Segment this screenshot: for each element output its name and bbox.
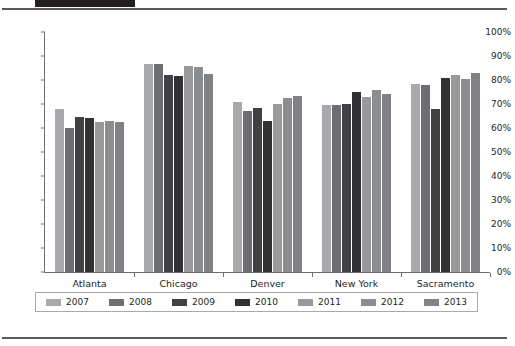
legend-item[interactable]: 2010 — [235, 298, 278, 307]
bar[interactable] — [342, 104, 351, 272]
legend-swatch — [298, 299, 313, 306]
y-axis-tick-label: 50% — [491, 148, 511, 157]
legend-swatch — [424, 299, 439, 306]
bar[interactable] — [372, 90, 381, 272]
bar[interactable] — [184, 66, 193, 272]
legend-item[interactable]: 2013 — [424, 298, 467, 307]
x-axis-line — [44, 272, 490, 273]
x-axis-tick-label: Denver — [223, 278, 312, 289]
bar[interactable] — [362, 97, 371, 272]
y-axis-tick-label: 20% — [491, 220, 511, 229]
bar-chart: 100%90%80%70%60%50%40%30%20%10%0%Atlanta… — [0, 14, 515, 284]
y-axis-tick-mark — [41, 200, 45, 201]
x-axis-tick-mark — [134, 273, 135, 277]
y-axis-tick-mark — [41, 248, 45, 249]
legend-label: 2011 — [318, 298, 341, 307]
bar[interactable] — [293, 96, 302, 272]
plot-area — [45, 32, 490, 272]
x-axis-tick-label: New York — [312, 278, 401, 289]
legend-label: 2010 — [255, 298, 278, 307]
y-axis-tick-label: 70% — [491, 100, 511, 109]
y-axis-tick-label: 100% — [485, 28, 511, 37]
bar[interactable] — [194, 67, 203, 272]
title-band — [0, 0, 515, 9]
bar[interactable] — [431, 109, 440, 272]
legend-label: 2007 — [66, 298, 89, 307]
bar[interactable] — [421, 85, 430, 272]
bar[interactable] — [332, 105, 341, 272]
x-axis-tick-mark — [401, 273, 402, 277]
bar[interactable] — [253, 108, 262, 272]
y-axis-tick-mark — [41, 272, 45, 273]
bar-group — [45, 32, 134, 272]
title-block — [35, 0, 135, 7]
y-axis-tick-label: 60% — [491, 124, 511, 133]
legend-item[interactable]: 2008 — [109, 298, 152, 307]
bar[interactable] — [154, 64, 163, 272]
y-axis-tick-label: 0% — [497, 268, 511, 277]
legend-label: 2013 — [444, 298, 467, 307]
bar[interactable] — [461, 79, 470, 272]
y-axis-tick-label: 10% — [491, 244, 511, 253]
bar[interactable] — [382, 94, 391, 272]
legend-item[interactable]: 2007 — [46, 298, 89, 307]
x-axis-tick-label: Chicago — [134, 278, 223, 289]
bar[interactable] — [85, 118, 94, 272]
bar[interactable] — [233, 102, 242, 272]
footer-divider — [2, 337, 507, 339]
bar[interactable] — [95, 122, 104, 272]
bar-group — [134, 32, 223, 272]
y-axis-tick-label: 30% — [491, 196, 511, 205]
bar[interactable] — [164, 75, 173, 272]
y-axis-tick-mark — [41, 128, 45, 129]
y-axis — [0, 14, 40, 272]
y-axis-tick-mark — [41, 56, 45, 57]
legend-swatch — [361, 299, 376, 306]
bar[interactable] — [144, 64, 153, 272]
y-axis-tick-mark — [41, 176, 45, 177]
bar[interactable] — [204, 74, 213, 272]
chart-legend: 2007200820092010201120122013 — [35, 292, 478, 312]
legend-swatch — [109, 299, 124, 306]
legend-label: 2009 — [192, 298, 215, 307]
bar[interactable] — [451, 75, 460, 272]
header-divider — [2, 8, 507, 10]
x-axis-tick-mark — [223, 273, 224, 277]
legend-item[interactable]: 2009 — [172, 298, 215, 307]
legend-item[interactable]: 2011 — [298, 298, 341, 307]
bar[interactable] — [115, 122, 124, 272]
legend-item[interactable]: 2012 — [361, 298, 404, 307]
legend-swatch — [46, 299, 61, 306]
legend-swatch — [172, 299, 187, 306]
bar[interactable] — [55, 109, 64, 272]
y-axis-tick-mark — [41, 104, 45, 105]
bar[interactable] — [75, 117, 84, 272]
bar[interactable] — [105, 121, 114, 272]
y-axis-tick-label: 40% — [491, 172, 511, 181]
y-axis-tick-mark — [41, 32, 45, 33]
bar[interactable] — [65, 128, 74, 272]
bar-group — [312, 32, 401, 272]
bar[interactable] — [174, 76, 183, 272]
y-axis-tick-mark — [41, 152, 45, 153]
y-axis-tick-label: 90% — [491, 52, 511, 61]
legend-label: 2012 — [381, 298, 404, 307]
bar-group — [223, 32, 312, 272]
bar[interactable] — [273, 104, 282, 272]
bar[interactable] — [263, 121, 272, 272]
x-axis-tick-label: Sacramento — [401, 278, 490, 289]
y-axis-tick-mark — [41, 224, 45, 225]
x-axis-tick-mark — [312, 273, 313, 277]
bar[interactable] — [471, 73, 480, 272]
bar[interactable] — [322, 105, 331, 272]
legend-swatch — [235, 299, 250, 306]
bar[interactable] — [352, 92, 361, 272]
x-axis-tick-label: Atlanta — [45, 278, 134, 289]
bar[interactable] — [243, 111, 252, 272]
y-axis-tick-mark — [41, 80, 45, 81]
bar[interactable] — [411, 84, 420, 272]
bar[interactable] — [283, 98, 292, 272]
bar[interactable] — [441, 78, 450, 272]
bar-group — [401, 32, 490, 272]
legend-label: 2008 — [129, 298, 152, 307]
